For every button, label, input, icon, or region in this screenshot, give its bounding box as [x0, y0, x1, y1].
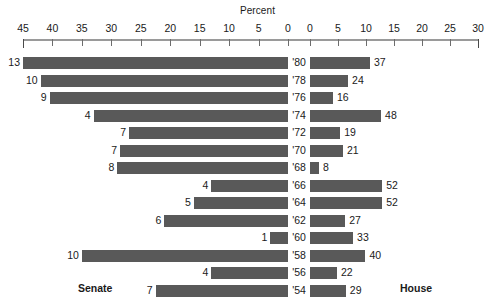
bar-row: 4'7448: [0, 108, 503, 125]
senate-bar: [120, 145, 288, 157]
right-axis-tick-25: 25: [438, 22, 462, 34]
bar-row: 10'7824: [0, 73, 503, 90]
house-bar: [310, 215, 345, 227]
left-tick-mark-15: [200, 39, 201, 46]
senate-bar: [211, 267, 288, 279]
bar-row: 8'688: [0, 160, 503, 177]
left-tick-mark-45: [23, 39, 24, 48]
senate-value-label: 4: [51, 109, 91, 122]
house-value-label: 29: [350, 284, 362, 297]
senate-bar: [41, 75, 288, 87]
year-label: '54: [288, 284, 310, 297]
senate-value-label: 4: [168, 266, 208, 279]
year-label: '62: [288, 214, 310, 227]
senate-value-label: 9: [7, 91, 47, 104]
left-axis-tick-45: 45: [11, 22, 35, 34]
bar-row: 10'5840: [0, 248, 503, 265]
house-panel-label: House: [400, 282, 432, 294]
senate-value-label: 7: [77, 144, 117, 157]
right-tick-mark-20: [422, 39, 423, 46]
year-label: '58: [288, 249, 310, 262]
bar-row: 1'6033: [0, 230, 503, 247]
left-tick-mark-20: [170, 39, 171, 46]
house-bar: [310, 250, 365, 262]
house-value-label: 21: [347, 144, 359, 157]
senate-value-label: 10: [39, 249, 79, 262]
house-bar: [310, 197, 382, 209]
left-axis-tick-40: 40: [40, 22, 64, 34]
left-axis-tick-15: 15: [188, 22, 212, 34]
bar-row: 4'6652: [0, 178, 503, 195]
right-axis-tick-30: 30: [466, 22, 490, 34]
left-axis-tick-0: 0: [276, 22, 300, 34]
senate-value-label: 6: [121, 214, 161, 227]
house-bar: [310, 92, 333, 104]
house-bar: [310, 145, 343, 157]
left-tick-mark-25: [141, 39, 142, 46]
senate-bar: [270, 232, 288, 244]
left-axis-tick-25: 25: [129, 22, 153, 34]
bar-row: 7'7219: [0, 125, 503, 142]
senate-value-label: 10: [0, 74, 38, 87]
senate-bar: [50, 92, 289, 104]
left-tick-mark-0: [288, 39, 289, 46]
house-value-label: 48: [385, 109, 397, 122]
year-label: '76: [288, 91, 310, 104]
house-value-label: 37: [374, 56, 386, 69]
right-tick-mark-5: [338, 39, 339, 46]
senate-panel-label: Senate: [78, 282, 112, 294]
house-bar: [310, 285, 346, 297]
house-value-label: 40: [369, 249, 381, 262]
right-tick-mark-25: [450, 39, 451, 46]
left-axis-tick-30: 30: [99, 22, 123, 34]
senate-bar: [156, 285, 289, 297]
left-axis-tick-5: 5: [247, 22, 271, 34]
house-value-label: 52: [386, 196, 398, 209]
senate-value-label: 7: [113, 284, 153, 297]
right-tick-mark-30: [478, 39, 479, 48]
bar-row: 5'6452: [0, 195, 503, 212]
year-label: '56: [288, 266, 310, 279]
left-tick-mark-35: [82, 39, 83, 46]
house-value-label: 33: [357, 231, 369, 244]
house-bar: [310, 232, 353, 244]
bar-row: 6'6227: [0, 213, 503, 230]
bidirectional-bar-chart: Percent 454035302520151050051015202530 1…: [0, 0, 503, 307]
year-label: '80: [288, 56, 310, 69]
senate-bar: [129, 127, 288, 139]
house-value-label: 52: [386, 179, 398, 192]
house-bar: [310, 267, 337, 279]
right-axis-tick-10: 10: [354, 22, 378, 34]
house-value-label: 24: [352, 74, 364, 87]
house-bar: [310, 162, 319, 174]
house-value-label: 19: [344, 126, 356, 139]
bar-row: 13'8037: [0, 55, 503, 72]
bar-row: 9'7616: [0, 90, 503, 107]
senate-value-label: 13: [0, 56, 20, 69]
senate-bar: [194, 197, 288, 209]
bar-row: 4'5622: [0, 265, 503, 282]
right-tick-mark-10: [366, 39, 367, 46]
senate-bar: [117, 162, 288, 174]
axis-title-text: Percent: [240, 5, 275, 16]
house-value-label: 27: [349, 214, 361, 227]
right-tick-mark-15: [394, 39, 395, 46]
axis-line: [23, 39, 479, 41]
house-value-label: 16: [337, 91, 349, 104]
senate-bar: [23, 57, 288, 69]
left-axis-tick-20: 20: [158, 22, 182, 34]
senate-value-label: 5: [151, 196, 191, 209]
left-tick-mark-30: [111, 39, 112, 46]
senate-bar: [211, 180, 288, 192]
house-bar: [310, 127, 340, 139]
left-axis-tick-10: 10: [217, 22, 241, 34]
right-axis-tick-0: 0: [298, 22, 322, 34]
senate-value-label: 8: [74, 161, 114, 174]
house-bar: [310, 110, 381, 122]
bar-row: 7'7021: [0, 143, 503, 160]
chart-axis-title: Percent: [0, 5, 503, 16]
right-axis-tick-15: 15: [382, 22, 406, 34]
house-bar: [310, 57, 370, 69]
senate-bar: [164, 215, 288, 227]
right-axis-tick-5: 5: [326, 22, 350, 34]
